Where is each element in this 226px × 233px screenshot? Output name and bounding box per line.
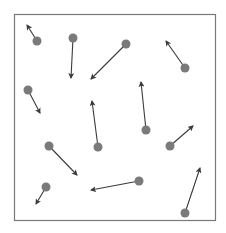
particles-group (24, 25, 201, 218)
particle-dot-icon (69, 34, 78, 43)
particle (92, 101, 103, 152)
velocity-arrow-icon (185, 168, 200, 213)
particle-dot-icon (181, 64, 190, 73)
particle (69, 34, 78, 79)
particle-dot-icon (166, 142, 175, 151)
particle-dot-icon (135, 177, 144, 186)
particle (24, 86, 41, 114)
velocity-arrow-icon (49, 146, 77, 175)
particle (27, 25, 42, 46)
particle (166, 126, 194, 151)
particle-dot-icon (45, 142, 54, 151)
velocity-arrow-icon (91, 181, 139, 190)
particle (166, 41, 190, 73)
particle (91, 177, 144, 191)
particle (181, 168, 201, 218)
velocity-arrow-icon (91, 44, 126, 79)
velocity-arrow-icon (166, 41, 185, 68)
particle (141, 82, 151, 135)
particle (45, 142, 78, 176)
particle-diagram (0, 0, 226, 233)
velocity-arrow-icon (141, 82, 146, 130)
velocity-arrow-icon (71, 38, 73, 78)
particle-dot-icon (24, 86, 33, 95)
particle (36, 183, 51, 205)
particle-dot-icon (42, 183, 51, 192)
particle-dot-icon (181, 209, 190, 218)
particle-dot-icon (94, 143, 103, 152)
particle (91, 40, 131, 80)
particle-dot-icon (142, 126, 151, 135)
velocity-arrow-icon (170, 126, 193, 146)
particle-dot-icon (122, 40, 131, 49)
velocity-arrow-icon (92, 101, 98, 147)
particle-dot-icon (33, 37, 42, 46)
